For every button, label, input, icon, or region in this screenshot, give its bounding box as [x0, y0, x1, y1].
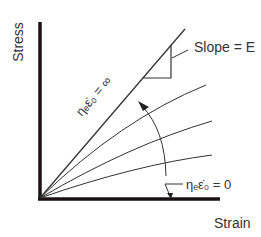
elastic-line: [40, 29, 185, 198]
arrowhead-icon: [138, 101, 149, 111]
zero-leader: [165, 184, 183, 196]
slope-leader: [172, 50, 188, 58]
lower-bound-label: ηₑε̇₀ = 0: [186, 177, 231, 192]
stress-strain-diagram: [0, 0, 261, 237]
y-axis-label: Stress: [10, 22, 26, 62]
slope-label: Slope = E: [194, 39, 255, 55]
x-axis-label: Strain: [214, 215, 251, 231]
